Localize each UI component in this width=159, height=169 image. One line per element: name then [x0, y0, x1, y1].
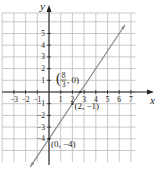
- y-tick-label: 2: [41, 64, 45, 73]
- fraction-denominator: 3: [62, 80, 66, 89]
- y-tick-label: 3: [41, 52, 45, 61]
- y-tick-label: 5: [41, 29, 45, 38]
- fraction-numerator: 8: [62, 71, 66, 80]
- x-axis-label: x: [149, 94, 155, 106]
- y-tick-label: −2: [37, 111, 45, 120]
- coordinate-graph: xy −3−2−1123456754321−1−2−3−4 (83, 0)(2,…: [0, 0, 159, 169]
- y-axis-label: y: [39, 0, 45, 12]
- x-tick-label: 6: [117, 95, 121, 104]
- y-tick-label: 1: [41, 76, 45, 85]
- y-tick-label: −4: [37, 134, 45, 143]
- point-labels: (83, 0)(2, −1)(0, −4): [48, 71, 99, 149]
- point-marker: [79, 91, 82, 94]
- x-tick-label: −2: [22, 95, 30, 104]
- x-tick-label: 7: [129, 95, 133, 104]
- x-tick-label: 1: [59, 95, 63, 104]
- point-label-0-neg4: (0, −4): [51, 139, 76, 149]
- y-tick-label: −3: [37, 123, 45, 132]
- x-tick-label: −3: [10, 95, 18, 104]
- point-label-x-intercept-rest: , 0): [67, 75, 79, 85]
- y-axis-arrow-icon: [47, 5, 52, 12]
- x-tick-label: 5: [106, 95, 110, 104]
- y-tick-label: 4: [41, 41, 45, 50]
- tick-labels: −3−2−1123456754321−1−2−3−4: [10, 29, 133, 143]
- point-marker: [48, 138, 51, 141]
- y-tick-label: −1: [37, 99, 45, 108]
- point-label-x-intercept-open-paren: (: [56, 71, 61, 87]
- point-label-2-neg1: (2, −1): [74, 101, 99, 111]
- point-marker: [71, 102, 74, 105]
